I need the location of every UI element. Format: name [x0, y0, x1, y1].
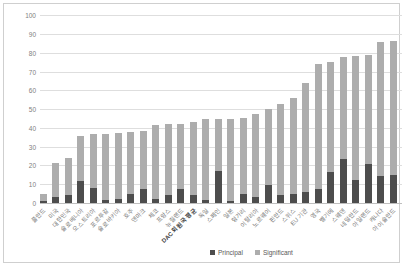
gridline-90	[40, 34, 402, 35]
segment-principal	[290, 194, 297, 203]
segment-principal	[90, 188, 97, 203]
x-axis-line	[40, 203, 402, 204]
segment-principal	[265, 185, 272, 203]
bar-스웨덴	[340, 57, 347, 203]
bar-포르투갈	[102, 134, 109, 203]
segment-principal	[65, 195, 72, 203]
bar-스페인	[215, 119, 222, 203]
bar-슬로베니아	[77, 136, 84, 203]
segment-significant	[352, 56, 359, 180]
bar-폴란드	[40, 194, 47, 203]
y-tick-label-70: 70	[10, 69, 36, 76]
segment-significant	[202, 119, 209, 200]
bar-호주	[127, 132, 134, 203]
chart-screenshot: 0102030405060708090100 폴란드미국대한민국슬로베니아오스트…	[0, 0, 403, 276]
bar-이탈리아	[252, 114, 259, 203]
bar-스위스	[290, 98, 297, 203]
segment-principal	[52, 197, 59, 203]
bar-벨기에	[327, 62, 334, 203]
gridline-100	[40, 15, 402, 16]
segment-principal	[127, 194, 134, 203]
bar-노르웨이	[265, 109, 272, 203]
y-tick-label-30: 30	[10, 144, 36, 151]
y-tick-label-100: 100	[10, 12, 36, 19]
segment-principal	[190, 195, 197, 203]
bar-아일랜드	[365, 55, 372, 203]
segment-significant	[302, 83, 309, 192]
segment-significant	[52, 163, 59, 198]
gridline-60	[40, 90, 402, 91]
legend-label: Principal	[218, 249, 243, 256]
legend-swatch-icon	[255, 250, 260, 255]
segment-principal	[177, 189, 184, 203]
segment-significant	[327, 62, 334, 172]
segment-significant	[277, 104, 284, 195]
bar-네덜란드	[352, 56, 359, 203]
bar-슬로바키아	[115, 133, 122, 203]
segment-significant	[290, 98, 297, 194]
segment-significant	[340, 57, 347, 159]
bar-핀란드	[277, 104, 284, 203]
bar-프랑스	[165, 124, 172, 203]
segment-principal	[277, 195, 284, 203]
bar-뉴질랜드	[177, 124, 184, 203]
segment-significant	[90, 134, 97, 188]
bar-영국	[315, 64, 322, 203]
segment-significant	[177, 124, 184, 189]
segment-principal	[152, 199, 159, 203]
bar-헝가리	[240, 118, 247, 203]
segment-principal	[365, 164, 372, 203]
y-tick-label-0: 0	[10, 200, 36, 207]
segment-significant	[390, 41, 397, 175]
segment-principal	[202, 200, 209, 203]
bar-미국	[52, 163, 59, 203]
segment-principal	[165, 195, 172, 203]
gridline-80	[40, 53, 402, 54]
y-tick-label-60: 60	[10, 87, 36, 94]
segment-principal	[302, 192, 309, 203]
y-tick-label-90: 90	[10, 31, 36, 38]
segment-significant	[377, 42, 384, 176]
segment-significant	[40, 194, 47, 202]
y-tick-label-10: 10	[10, 181, 36, 188]
legend-swatch-icon	[210, 250, 215, 255]
segment-significant	[140, 131, 147, 189]
segment-significant	[215, 119, 222, 172]
bar-독일	[202, 119, 209, 203]
y-tick-label-20: 20	[10, 162, 36, 169]
segment-significant	[115, 133, 122, 200]
legend-item-significant: Significant	[255, 249, 293, 256]
segment-principal	[140, 189, 147, 203]
segment-significant	[165, 124, 172, 194]
y-tick-label-40: 40	[10, 125, 36, 132]
bar-일본	[227, 119, 234, 203]
segment-principal	[252, 197, 259, 203]
bar-대한민국	[65, 158, 72, 203]
chart-frame: 0102030405060708090100 폴란드미국대한민국슬로베니아오스트…	[3, 3, 400, 263]
segment-significant	[152, 125, 159, 199]
gridline-50	[40, 109, 402, 110]
segment-principal	[377, 176, 384, 203]
bar-아이슬란드	[390, 41, 397, 203]
legend: PrincipalSignificant	[210, 249, 293, 256]
segment-significant	[227, 119, 234, 202]
segment-significant	[365, 55, 372, 164]
segment-significant	[65, 158, 72, 196]
legend-label: Significant	[263, 249, 293, 256]
segment-principal	[40, 201, 47, 203]
segment-principal	[215, 171, 222, 203]
bar-DAC 회원국 평균	[190, 122, 197, 203]
segment-significant	[190, 122, 197, 194]
bar-오스트리아	[90, 134, 97, 203]
segment-principal	[115, 199, 122, 203]
bar-캐나다	[377, 42, 384, 203]
segment-significant	[252, 114, 259, 198]
x-label-폴란드: 폴란드	[30, 207, 48, 225]
segment-principal	[315, 189, 322, 203]
segment-significant	[315, 64, 322, 189]
segment-principal	[352, 180, 359, 203]
segment-significant	[127, 132, 134, 194]
segment-significant	[77, 136, 84, 181]
bar-체코	[152, 125, 159, 203]
segment-principal	[77, 181, 84, 203]
